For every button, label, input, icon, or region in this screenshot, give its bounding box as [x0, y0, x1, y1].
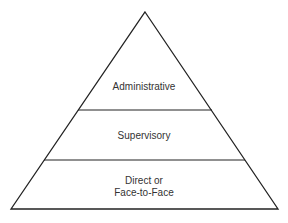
level-direct-label-line1: Direct or: [0, 175, 288, 187]
level-direct-label-line2: Face-to-Face: [0, 187, 288, 199]
level-administrative-label: Administrative: [0, 81, 288, 93]
level-supervisory-label: Supervisory: [0, 130, 288, 142]
